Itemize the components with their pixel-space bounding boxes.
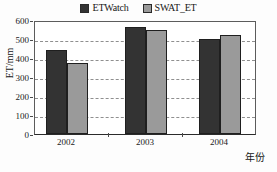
- y-tick-label: 300: [16, 74, 30, 83]
- bar-swat-et-2004: [220, 35, 241, 134]
- x-tick-label: 2003: [136, 137, 154, 148]
- legend-item-swat-et: SWAT_ET: [143, 3, 197, 13]
- y-tick-mark: [30, 97, 33, 98]
- y-tick-label: 500: [16, 36, 30, 45]
- y-tick-mark: [30, 59, 33, 60]
- bar-swat-et-2003: [146, 30, 167, 134]
- bar-swat-et-2002: [67, 63, 88, 134]
- chart-legend: ETWatch SWAT_ET: [0, 3, 277, 13]
- y-tick-label: 100: [16, 112, 30, 121]
- bars-layer: [35, 22, 255, 134]
- y-axis-title: ET/mm: [5, 37, 15, 89]
- x-axis: 200220032004: [34, 137, 256, 151]
- plot-area: [34, 21, 256, 135]
- y-tick-mark: [30, 78, 33, 79]
- y-tick-label: 0: [25, 131, 30, 140]
- x-tick-mark: [108, 133, 109, 137]
- bar-etwatch-2003: [125, 27, 146, 134]
- legend-label-swat-et: SWAT_ET: [155, 3, 197, 13]
- y-tick-label: 400: [16, 55, 30, 64]
- x-tick-label: 2004: [210, 137, 228, 148]
- legend-swatch-swat-et: [143, 4, 152, 13]
- legend-item-etwatch: ETWatch: [80, 3, 128, 13]
- y-tick-mark: [30, 135, 33, 136]
- x-axis-title: 年份: [245, 152, 265, 164]
- y-tick-label: 200: [16, 93, 30, 102]
- y-tick-mark: [30, 116, 33, 117]
- y-tick-label: 600: [16, 17, 30, 26]
- x-tick-mark: [182, 133, 183, 137]
- x-tick-label: 2002: [57, 137, 75, 148]
- y-tick-mark: [30, 40, 33, 41]
- y-tick-mark: [30, 21, 33, 22]
- bar-etwatch-2004: [199, 39, 220, 134]
- legend-label-etwatch: ETWatch: [92, 3, 128, 13]
- bar-etwatch-2002: [46, 50, 67, 134]
- bar-chart: ETWatch SWAT_ET 0100200300400500600 ET/m…: [0, 0, 277, 172]
- legend-swatch-etwatch: [80, 4, 89, 13]
